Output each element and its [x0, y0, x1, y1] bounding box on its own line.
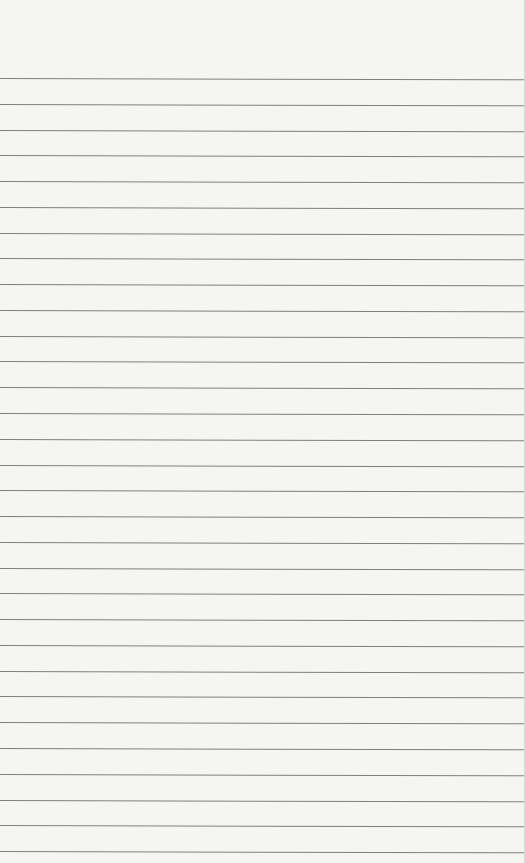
- ruled-line: [0, 439, 524, 441]
- ruled-line: [0, 258, 524, 260]
- ruled-line: [0, 825, 524, 827]
- ruled-line: [0, 696, 524, 698]
- ruled-line: [0, 619, 524, 621]
- ruled-line: [0, 568, 524, 570]
- ruled-line: [0, 155, 524, 157]
- ruled-line: [0, 671, 524, 673]
- ruled-line: [0, 542, 524, 544]
- ruled-line: [0, 104, 524, 106]
- ruled-line: [0, 284, 524, 286]
- ruled-line: [0, 413, 524, 415]
- ruled-line: [0, 490, 524, 492]
- ruled-line: [0, 800, 524, 802]
- ruled-line: [0, 310, 524, 312]
- ruled-line: [0, 207, 524, 209]
- ruled-line: [0, 593, 524, 595]
- ruled-line: [0, 748, 524, 750]
- ruled-line: [0, 387, 524, 389]
- ruled-line: [0, 181, 524, 183]
- ruled-line: [0, 516, 524, 518]
- ruled-line: [0, 361, 524, 363]
- ruled-line: [0, 130, 524, 132]
- ruled-line: [0, 233, 524, 235]
- lined-paper-sheet: [0, 0, 526, 863]
- ruled-line: [0, 722, 524, 724]
- ruled-line: [0, 774, 524, 776]
- ruled-line: [0, 78, 524, 80]
- ruled-line: [0, 851, 524, 853]
- ruled-line: [0, 465, 524, 467]
- ruled-line: [0, 645, 524, 647]
- ruled-line: [0, 336, 524, 338]
